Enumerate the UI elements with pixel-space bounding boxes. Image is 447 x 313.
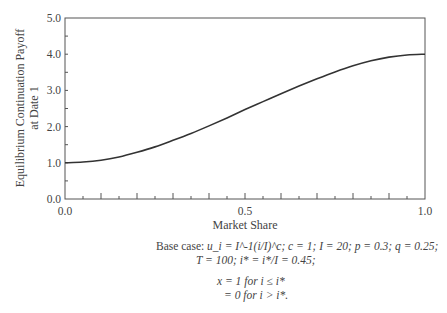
caption-formula-1: u_i = I^-1(i/I)^c; c = 1; I = 20; p = 0.… <box>207 240 438 252</box>
caption: Base case: u_i = I^-1(i/I)^c; c = 1; I =… <box>0 0 447 313</box>
caption-line-4: = 0 for i > i*. <box>224 289 288 301</box>
caption-line-3: x = 1 for i ≤ i* <box>217 275 285 287</box>
caption-line-1: Base case: u_i = I^-1(i/I)^c; c = 1; I =… <box>156 240 438 252</box>
caption-line-2: T = 100; i* = i*/I = 0.45; <box>196 254 316 266</box>
caption-formula-4: = 0 for i > i*. <box>224 289 288 301</box>
caption-prefix: Base case: <box>156 240 207 252</box>
caption-formula-2: T = 100; i* = i*/I = 0.45; <box>196 254 316 266</box>
caption-formula-3: x = 1 for i ≤ i* <box>217 275 285 287</box>
